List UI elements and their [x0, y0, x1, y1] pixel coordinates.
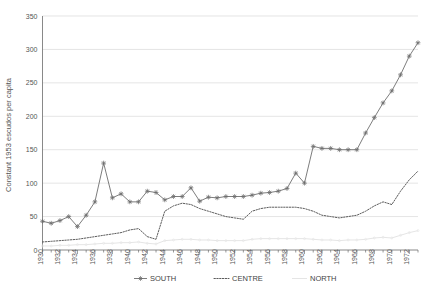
x-tick-label: 1960 — [298, 249, 305, 265]
data-point-marker — [250, 193, 255, 198]
data-point-marker — [276, 189, 281, 194]
data-point-marker — [136, 199, 141, 204]
legend-item-south[interactable]: SOUTH — [134, 274, 176, 283]
x-tick-label: 1970 — [386, 249, 393, 265]
data-point-marker — [138, 276, 143, 281]
data-point-marker — [337, 147, 342, 152]
x-tick-label: 1964 — [333, 249, 340, 265]
data-point-marker — [302, 181, 307, 186]
chart-container: 050100150200250300350 193019321934193619… — [0, 0, 428, 294]
series-north — [42, 230, 420, 247]
series-centre — [43, 171, 419, 242]
data-point-marker — [197, 199, 202, 204]
x-tick-label: 1954 — [246, 249, 253, 265]
data-point-marker — [215, 195, 220, 200]
data-point-marker — [162, 197, 167, 202]
data-point-marker — [127, 199, 132, 204]
data-point-marker — [84, 213, 89, 218]
x-tick-label: 1934 — [71, 249, 78, 265]
x-tick-label: 1966 — [351, 249, 358, 265]
data-point-marker — [372, 115, 377, 120]
x-tick-label: 1958 — [281, 249, 288, 265]
data-point-marker — [311, 144, 316, 149]
data-point-marker — [381, 101, 386, 106]
gridlines-group — [43, 16, 419, 217]
legend-item-north[interactable]: NORTH — [292, 274, 337, 283]
data-point-marker — [241, 194, 246, 199]
data-point-marker — [232, 194, 237, 199]
y-tick-label: 300 — [26, 46, 38, 53]
x-tick-label: 1936 — [89, 249, 96, 265]
x-tick-label: 1944 — [159, 249, 166, 265]
data-point-marker — [328, 146, 333, 151]
chart-legend: SOUTHCENTRENORTH — [134, 274, 337, 283]
data-point-marker — [363, 131, 368, 136]
data-point-marker — [180, 194, 185, 199]
y-tick-label: 350 — [26, 13, 38, 20]
legend-item-centre[interactable]: CENTRE — [214, 274, 263, 283]
data-point-marker — [285, 186, 290, 191]
x-tick-label: 1938 — [106, 249, 113, 265]
legend-label: SOUTH — [150, 274, 176, 283]
y-tick-label: 50 — [30, 213, 38, 220]
x-tick-label: 1932 — [54, 249, 61, 265]
line-chart: 050100150200250300350 193019321934193619… — [0, 0, 428, 294]
x-tick-label: 1956 — [264, 249, 271, 265]
x-tick-label: 1948 — [194, 249, 201, 265]
data-point-marker — [66, 214, 71, 219]
x-tick-label: 1950 — [211, 249, 218, 265]
data-point-marker — [154, 190, 159, 195]
legend-label: NORTH — [310, 274, 337, 283]
data-point-marker — [416, 40, 421, 45]
data-point-marker — [58, 218, 63, 223]
y-tick-label: 250 — [26, 79, 38, 86]
data-point-marker — [110, 195, 115, 200]
x-tick-label: 1946 — [176, 249, 183, 265]
data-point-marker — [119, 191, 124, 196]
data-point-marker — [407, 54, 412, 59]
data-point-marker — [49, 221, 54, 226]
y-tick-label: 100 — [26, 180, 38, 187]
data-point-marker — [258, 191, 263, 196]
x-axis-tick-labels: 1930193219341936193819401942194419461948… — [37, 249, 411, 265]
data-point-marker — [320, 146, 325, 151]
x-tick-label: 1952 — [229, 249, 236, 265]
data-point-marker — [145, 189, 150, 194]
data-point-marker — [189, 185, 194, 190]
x-tick-label: 1972 — [403, 249, 410, 265]
x-tick-label: 1930 — [37, 249, 44, 265]
y-axis-tick-labels: 050100150200250300350 — [26, 13, 38, 254]
series-layer — [40, 40, 420, 247]
data-point-marker — [389, 88, 394, 93]
y-tick-label: 150 — [26, 146, 38, 153]
data-point-marker — [346, 147, 351, 152]
data-point-marker — [293, 171, 298, 176]
x-tick-label: 1968 — [368, 249, 375, 265]
series-south — [40, 40, 420, 229]
data-point-marker — [75, 224, 80, 229]
data-point-marker — [206, 195, 211, 200]
x-tick-label: 1940 — [124, 249, 131, 265]
data-point-marker — [354, 147, 359, 152]
data-point-marker — [92, 199, 97, 204]
x-tick-label: 1942 — [141, 249, 148, 265]
y-axis-title: Constant 1953 escudos per capita — [4, 77, 13, 192]
data-point-marker — [40, 219, 45, 224]
data-point-marker — [101, 161, 106, 166]
data-point-marker — [171, 194, 176, 199]
data-point-marker — [398, 72, 403, 77]
data-point-marker — [267, 190, 272, 195]
x-tick-label: 1962 — [316, 249, 323, 265]
legend-label: CENTRE — [232, 274, 263, 283]
y-tick-label: 200 — [26, 113, 38, 120]
data-point-marker — [223, 194, 228, 199]
